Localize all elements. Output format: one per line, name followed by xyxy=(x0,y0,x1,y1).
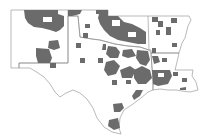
county-ar-3 xyxy=(156,30,160,35)
county-ar-2 xyxy=(158,21,163,27)
county-cluster-etx-4 xyxy=(104,60,120,76)
county-ok-hole-2 xyxy=(128,32,136,37)
county-tx-pan-1 xyxy=(85,24,90,28)
county-cluster-gulf-1 xyxy=(132,90,143,100)
highlighted-counties xyxy=(24,10,187,130)
county-cluster-etx-6 xyxy=(134,66,152,84)
county-cluster-nm-hole xyxy=(43,17,52,22)
county-cluster-ctx xyxy=(102,44,106,50)
county-cluster-nm-south xyxy=(36,48,52,63)
county-choropleth-map xyxy=(0,0,209,136)
county-la-4 xyxy=(180,87,186,90)
county-la-2 xyxy=(173,72,178,76)
county-la-hole xyxy=(158,73,164,77)
county-ar-6 xyxy=(172,43,177,47)
county-tx-pan-3 xyxy=(76,43,81,48)
county-etx-7 xyxy=(126,80,131,84)
county-la-3 xyxy=(182,78,187,82)
county-etx-8 xyxy=(112,80,117,85)
county-cluster-etx-5 xyxy=(120,66,136,78)
county-cluster-ok-west xyxy=(68,10,82,16)
county-cluster-etx-2 xyxy=(122,49,136,58)
county-ok-ne xyxy=(96,10,100,14)
county-tx-pan-4 xyxy=(80,58,85,63)
county-cluster-ok-central xyxy=(98,10,146,44)
county-ar-7 xyxy=(152,48,156,53)
county-cluster-la-west xyxy=(152,70,172,86)
county-cluster-etx-3 xyxy=(136,50,150,66)
county-cluster-nm-central xyxy=(48,40,60,50)
county-ok-hole-1 xyxy=(112,20,120,26)
county-ar-1 xyxy=(152,17,158,22)
county-ar-4 xyxy=(166,27,171,35)
county-la-1 xyxy=(162,58,167,62)
county-cluster-gulf-3 xyxy=(108,118,120,130)
county-nm-se xyxy=(50,63,56,68)
county-cluster-gulf-2 xyxy=(113,103,124,112)
county-etx-9 xyxy=(98,58,103,63)
county-ar-5 xyxy=(171,18,177,23)
county-cluster-la-nw xyxy=(152,56,160,64)
county-tx-pan-2 xyxy=(83,33,88,38)
county-cluster-etx-1 xyxy=(106,46,120,58)
